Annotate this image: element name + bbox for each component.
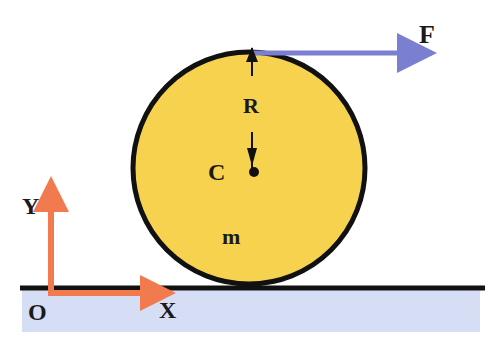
ground-surface (22, 290, 480, 332)
center-point (249, 167, 259, 177)
center-label: C (208, 159, 225, 185)
radius-label: R (243, 93, 260, 118)
cylinder (133, 52, 365, 284)
origin-label: O (28, 299, 47, 325)
force-label: F (419, 20, 435, 49)
y-axis-label: Y (22, 193, 39, 219)
x-axis-label: X (159, 297, 177, 323)
diagram-canvas: F R C m Y X O (0, 0, 503, 349)
mass-label: m (222, 224, 240, 249)
